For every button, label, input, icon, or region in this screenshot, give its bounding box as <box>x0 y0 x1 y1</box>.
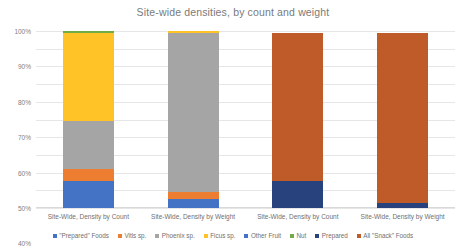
legend-item[interactable]: "Prepared" Foods <box>53 232 109 239</box>
bar-group: Site-Wide, Density by Weight <box>141 31 246 208</box>
bar-segment[interactable] <box>168 192 219 199</box>
bar-series-area: Site-Wide, Density by CountSite-Wide, De… <box>36 31 455 208</box>
bar-segment[interactable] <box>63 33 114 122</box>
legend-swatch-icon <box>155 234 159 238</box>
bar-segment[interactable] <box>63 181 114 208</box>
legend-swatch-icon <box>244 234 248 238</box>
bar-segment[interactable] <box>377 203 428 208</box>
legend-swatch-icon <box>53 234 57 238</box>
gridline: 0% <box>36 208 455 209</box>
bar-group: Site-Wide, Density by Count <box>36 31 141 208</box>
legend-swatch-icon <box>204 234 208 238</box>
legend-item-label: All "Snack" Foods <box>363 232 413 239</box>
x-axis-category-label: Site-Wide, Density by Weight <box>361 213 445 220</box>
legend-item[interactable]: Prepared <box>315 232 347 239</box>
legend-item-label: Vitis sp. <box>124 232 146 239</box>
y-axis-tick-label: 70% <box>18 134 31 141</box>
plot-area: 100%90%80%70%60%50%40%30%20%10%0% Site-W… <box>36 31 455 208</box>
bar-segment[interactable] <box>168 31 219 33</box>
y-axis-tick-label: 80% <box>18 98 31 105</box>
bar-segment[interactable] <box>63 31 114 33</box>
bar-segment[interactable] <box>168 33 219 192</box>
legend-swatch-icon <box>315 234 319 238</box>
legend-item-label: Prepared <box>322 232 348 239</box>
y-axis-tick-label: 90% <box>18 63 31 70</box>
stacked-bar[interactable] <box>377 31 428 208</box>
x-axis-category-label: Site-Wide, Density by Count <box>257 213 338 220</box>
legend-item[interactable]: All "Snack" Foods <box>357 232 413 239</box>
legend-swatch-icon <box>357 234 361 238</box>
bar-segment[interactable] <box>63 121 114 169</box>
bar-segment[interactable] <box>377 33 428 203</box>
legend-item[interactable]: Vitis sp. <box>118 232 146 239</box>
x-axis-category-label: Site-Wide, Density by Count <box>48 213 129 220</box>
chart-container: Site-wide densities, by count and weight… <box>0 0 466 251</box>
stacked-bar[interactable] <box>272 31 323 208</box>
bar-segment[interactable] <box>272 181 323 208</box>
y-axis-tick-label: 60% <box>18 169 31 176</box>
legend-swatch-icon <box>118 234 122 238</box>
bar-segment[interactable] <box>63 169 114 181</box>
legend-swatch-icon <box>290 234 294 238</box>
legend-item-label: Other Fruit <box>251 232 281 239</box>
chart-title: Site-wide densities, by count and weight <box>0 6 466 18</box>
bar-group: Site-Wide, Density by Weight <box>350 31 455 208</box>
x-axis-category-label: Site-Wide, Density by Weight <box>151 213 235 220</box>
legend-item-label: "Prepared" Foods <box>59 232 109 239</box>
bar-group: Site-Wide, Density by Count <box>246 31 351 208</box>
y-axis-tick-label: 50% <box>18 205 31 212</box>
chart-legend: "Prepared" FoodsVitis sp.Phoenix sp.Ficu… <box>0 232 466 239</box>
legend-item-label: Phoenix sp. <box>162 232 195 239</box>
y-axis-tick-label: 100% <box>14 28 31 35</box>
legend-item[interactable]: Phoenix sp. <box>155 232 194 239</box>
legend-item-label: Ficus sp. <box>210 232 235 239</box>
stacked-bar[interactable] <box>63 31 114 208</box>
legend-item-label: Nut <box>297 232 307 239</box>
bar-segment[interactable] <box>272 33 323 182</box>
legend-item[interactable]: Other Fruit <box>244 232 281 239</box>
bar-segment[interactable] <box>168 199 219 208</box>
y-axis-tick-label: 40% <box>18 240 31 247</box>
stacked-bar[interactable] <box>168 31 219 208</box>
legend-item[interactable]: Ficus sp. <box>204 232 236 239</box>
legend-item[interactable]: Nut <box>290 232 306 239</box>
